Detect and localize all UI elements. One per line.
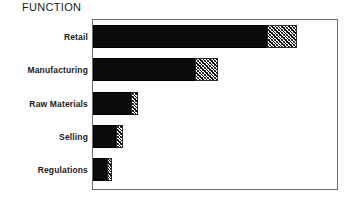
bar-row bbox=[93, 158, 112, 181]
bar-segment-hatched bbox=[107, 158, 112, 181]
category-label: Manufacturing bbox=[0, 65, 88, 75]
bar-segment-hatched bbox=[131, 92, 138, 115]
bar-segment-hatched bbox=[195, 58, 218, 81]
category-label: Selling bbox=[0, 132, 88, 142]
category-label: Retail bbox=[0, 32, 88, 42]
bar-segment-solid bbox=[93, 25, 267, 48]
bar-chart: FUNCTION RetailManufacturingRaw Material… bbox=[0, 0, 356, 207]
category-axis-labels: RetailManufacturingRaw MaterialsSellingR… bbox=[0, 19, 88, 190]
bar-row bbox=[93, 92, 138, 115]
bar-segment-hatched bbox=[267, 25, 297, 48]
bar-row bbox=[93, 125, 123, 148]
bar-row bbox=[93, 25, 297, 48]
bar-segment-solid bbox=[93, 125, 116, 148]
chart-title: FUNCTION bbox=[22, 1, 81, 13]
bar-segment-solid bbox=[93, 92, 131, 115]
category-label: Regulations bbox=[0, 165, 88, 175]
bar-segment-solid bbox=[93, 158, 107, 181]
bar-segment-hatched bbox=[116, 125, 123, 148]
category-label: Raw Materials bbox=[0, 99, 88, 109]
bar-segment-solid bbox=[93, 58, 195, 81]
bar-row bbox=[93, 58, 218, 81]
